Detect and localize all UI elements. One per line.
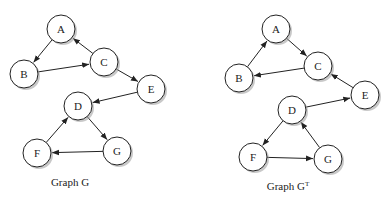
- edge-c-to-b: [254, 68, 304, 76]
- edge-d-to-g: [87, 117, 107, 140]
- edge-b-to-a: [247, 41, 267, 67]
- edge-a-to-b: [34, 40, 53, 63]
- caption-text: Graph G: [267, 180, 305, 192]
- node-e: E: [351, 81, 381, 111]
- node-c: C: [90, 48, 120, 78]
- caption-superscript: T: [305, 180, 310, 188]
- edge-c-to-e: [116, 69, 138, 82]
- node-f: F: [23, 139, 53, 169]
- node-label: B: [20, 68, 27, 80]
- edge-d-to-f: [263, 121, 283, 146]
- edge-g-to-f: [52, 151, 103, 152]
- graph-g-caption: Graph G: [51, 176, 89, 188]
- graph-g-transpose: ABCDEFG Graph GT: [225, 15, 381, 192]
- edge-e-to-c: [331, 74, 353, 88]
- node-b: B: [225, 64, 255, 94]
- node-b: B: [10, 60, 40, 90]
- edge-g-to-d: [301, 122, 320, 148]
- node-label: A: [272, 23, 280, 35]
- graph-gt-caption: Graph GT: [267, 180, 310, 192]
- graph-g-nodes: ABCDEFG: [10, 15, 167, 169]
- node-label: D: [288, 104, 296, 116]
- node-label: C: [100, 56, 107, 68]
- node-label: D: [74, 100, 82, 112]
- node-g: G: [103, 137, 133, 167]
- node-label: G: [113, 145, 121, 157]
- edge-d-to-e: [306, 98, 351, 107]
- graph-g: ABCDEFG Graph G: [10, 15, 167, 188]
- node-a: A: [262, 15, 292, 45]
- node-label: E: [148, 83, 155, 95]
- edge-e-to-d: [93, 92, 138, 102]
- node-e: E: [137, 75, 167, 105]
- node-f: F: [239, 143, 269, 173]
- edge-c-to-a: [73, 38, 93, 53]
- node-label: F: [34, 147, 40, 159]
- edge-b-to-c: [38, 64, 89, 72]
- node-label: A: [57, 23, 65, 35]
- graph-gt-nodes: ABCDEFG: [225, 15, 381, 175]
- node-d: D: [64, 92, 94, 122]
- node-label: C: [314, 60, 321, 72]
- graph-diagram: ABCDEFG Graph G ABCDEFG Graph GT: [0, 0, 391, 199]
- node-label: E: [362, 89, 369, 101]
- caption-text: Graph G: [51, 176, 89, 188]
- node-label: F: [250, 151, 256, 163]
- node-g: G: [314, 145, 344, 175]
- node-label: B: [235, 72, 242, 84]
- edge-f-to-g: [267, 157, 313, 158]
- node-c: C: [304, 52, 334, 82]
- edge-a-to-c: [287, 38, 307, 56]
- node-label: G: [324, 153, 332, 165]
- edge-f-to-d: [46, 117, 68, 142]
